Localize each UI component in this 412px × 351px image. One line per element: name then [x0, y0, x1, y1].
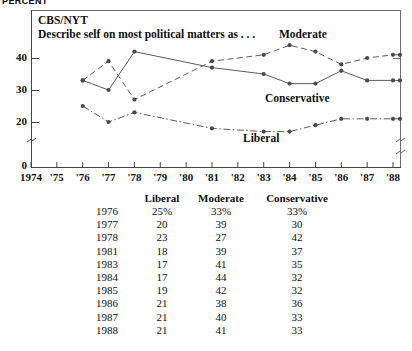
x-tick-label-y85: '85 — [308, 171, 322, 183]
table-row: 1984174432 — [96, 271, 340, 284]
table-cell-liberal: 21 — [136, 324, 188, 337]
table-cell-conservative: 32 — [254, 271, 340, 284]
x-tick-label-y80: '80 — [179, 171, 193, 183]
table-cell-conservative: 35 — [254, 258, 340, 271]
table-cell-conservative: 37 — [254, 245, 340, 258]
table-cell-conservative: 30 — [254, 218, 340, 231]
table-cell-liberal: 21 — [136, 297, 188, 310]
table-header-moderate: Moderate — [188, 192, 254, 205]
table-header-conservative: Conservative — [254, 192, 340, 205]
table-cell-year: 1977 — [96, 218, 136, 231]
table-cell-year: 1987 — [96, 311, 136, 324]
x-tick-label-y83: '83 — [257, 171, 271, 183]
table-cell-year: 1976 — [96, 205, 136, 218]
table-cell-conservative: 32 — [254, 284, 340, 297]
y-axis-unit-label: PERCENT — [2, 0, 48, 6]
table-cell-year: 1983 — [96, 258, 136, 271]
table-cell-liberal: 17 — [136, 271, 188, 284]
y-tick-label-20: 20 — [5, 115, 27, 127]
x-tick-label-y88: '88 — [386, 171, 400, 183]
table-header-liberal: Liberal — [136, 192, 188, 205]
x-tick-label-y78: '78 — [127, 171, 141, 183]
table-row: 1977203930 — [96, 218, 340, 231]
x-tick-label-y82: '82 — [231, 171, 245, 183]
table-cell-conservative: 33% — [254, 205, 340, 218]
x-tick-label-y75: '75 — [50, 171, 64, 183]
table-cell-liberal: 19 — [136, 284, 188, 297]
x-tick-label-y87: '87 — [360, 171, 374, 183]
table-cell-liberal: 18 — [136, 245, 188, 258]
table-row: 1985194232 — [96, 284, 340, 297]
table-row: 197625%33%33% — [96, 205, 340, 218]
table-header-year — [96, 192, 136, 205]
table-cell-year: 1978 — [96, 231, 136, 244]
table-cell-conservative: 42 — [254, 231, 340, 244]
plot-area: CBS/NYT Describe self on most political … — [31, 10, 401, 168]
table-cell-moderate: 44 — [188, 271, 254, 284]
table-cell-moderate: 40 — [188, 311, 254, 324]
table-cell-year: 1988 — [96, 324, 136, 337]
table-cell-moderate: 27 — [188, 231, 254, 244]
y-tick-label-30: 30 — [5, 83, 27, 95]
table-cell-moderate: 42 — [188, 284, 254, 297]
table-cell-moderate: 41 — [188, 324, 254, 337]
table-cell-year: 1986 — [96, 297, 136, 310]
x-axis-ticks — [31, 10, 401, 168]
table-cell-moderate: 39 — [188, 218, 254, 231]
x-tick-label-1974: 1974 — [20, 171, 42, 183]
table-cell-liberal: 23 — [136, 231, 188, 244]
x-tick-label-y84: '84 — [283, 171, 297, 183]
table-cell-moderate: 39 — [188, 245, 254, 258]
table-row: 1983174135 — [96, 258, 340, 271]
table-cell-year: 1985 — [96, 284, 136, 297]
table-cell-moderate: 41 — [188, 258, 254, 271]
table-cell-liberal: 21 — [136, 311, 188, 324]
chart-figure: PERCENT CBS/NYT Describe self on most po… — [0, 0, 412, 351]
x-tick-label-y86: '86 — [334, 171, 348, 183]
x-tick-label-y76: '76 — [76, 171, 90, 183]
table-row: 1981183937 — [96, 245, 340, 258]
table-row: 1978232742 — [96, 231, 340, 244]
x-tick-label-y81: '81 — [205, 171, 219, 183]
table-header-row: Liberal Moderate Conservative — [96, 192, 340, 205]
table-cell-liberal: 17 — [136, 258, 188, 271]
table-cell-moderate: 38 — [188, 297, 254, 310]
x-tick-label-y77: '77 — [102, 171, 116, 183]
y-tick-label-0: 0 — [5, 159, 27, 171]
table-row: 1987214033 — [96, 311, 340, 324]
data-table: Liberal Moderate Conservative 197625%33%… — [96, 192, 340, 337]
table-cell-conservative: 33 — [254, 324, 340, 337]
x-tick-label-y79: '79 — [153, 171, 167, 183]
table-cell-year: 1981 — [96, 245, 136, 258]
y-tick-label-40: 40 — [5, 51, 27, 63]
table-cell-liberal: 20 — [136, 218, 188, 231]
table-cell-moderate: 33% — [188, 205, 254, 218]
table-row: 1988214133 — [96, 324, 340, 337]
table-cell-conservative: 36 — [254, 297, 340, 310]
table-cell-year: 1984 — [96, 271, 136, 284]
table-row: 1986213836 — [96, 297, 340, 310]
table-cell-liberal: 25% — [136, 205, 188, 218]
table-cell-conservative: 33 — [254, 311, 340, 324]
